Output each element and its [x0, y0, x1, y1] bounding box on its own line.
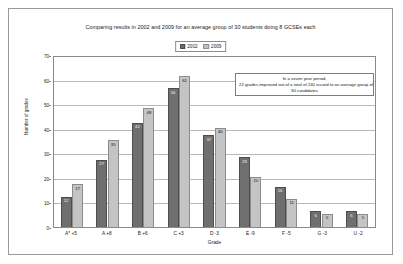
bar-slot: 27	[96, 56, 107, 228]
bar[interactable]: 42	[132, 123, 143, 228]
bar-slot: 37	[203, 56, 214, 228]
legend-label-2002: 2002	[187, 44, 197, 49]
x-tick-label: B +6	[125, 231, 161, 236]
bar[interactable]: 6	[310, 211, 321, 228]
bar-slot: 17	[72, 56, 83, 228]
bar-slot: 40	[215, 56, 226, 228]
y-tick-mark	[49, 130, 51, 131]
bar-value-label: 6	[350, 214, 352, 218]
bar-slot: 35	[108, 56, 119, 228]
x-axis-tick-labels: A* +5A +8B +6C +3D -3E -9F -5G -3U -2	[53, 231, 376, 236]
y-axis: 70 60 50 40 30 20 10 0	[33, 56, 51, 228]
bar-slot: 48	[143, 56, 154, 228]
bar[interactable]: 5	[357, 214, 368, 228]
y-tick-mark	[49, 154, 51, 155]
legend-swatch-icon-2009	[204, 44, 210, 50]
bar[interactable]: 20	[250, 177, 261, 228]
bar-slot: 61	[179, 56, 190, 228]
bar-value-label: 35	[111, 143, 116, 147]
bar-group: 5661	[161, 56, 197, 228]
bar[interactable]: 56	[168, 88, 179, 228]
bar-value-label: 56	[171, 91, 176, 95]
x-tick-label: A +8	[89, 231, 125, 236]
bar[interactable]: 11	[286, 199, 297, 228]
bar[interactable]: 27	[96, 160, 107, 228]
x-tick-label: D -3	[197, 231, 233, 236]
y-tick-mark	[49, 56, 51, 57]
bar-group: 1217	[54, 56, 90, 228]
bar[interactable]: 37	[203, 135, 214, 228]
bar-value-label: 6	[315, 214, 317, 218]
bar-value-label: 61	[182, 79, 187, 83]
bar-group: 2735	[90, 56, 126, 228]
y-tick-mark	[49, 228, 51, 229]
y-axis-title: Number of grades	[24, 87, 29, 147]
x-tick-label: F -5	[268, 231, 304, 236]
bar-slot: 12	[61, 56, 72, 228]
y-tick-mark	[49, 203, 51, 204]
bar-slot: 42	[132, 56, 143, 228]
bar-group: 3740	[197, 56, 233, 228]
bar-value-label: 40	[218, 130, 223, 134]
bar-value-label: 12	[64, 199, 69, 203]
legend-label-2009: 2009	[211, 44, 221, 49]
bar[interactable]: 48	[143, 108, 154, 228]
bar-value-label: 5	[326, 216, 328, 220]
bar-value-label: 20	[254, 179, 259, 183]
bar[interactable]: 40	[215, 128, 226, 228]
bar-value-label: 11	[289, 201, 293, 205]
bar[interactable]: 35	[108, 140, 119, 228]
x-axis-title: Grade	[53, 240, 376, 245]
bar[interactable]: 61	[179, 76, 190, 228]
bar[interactable]: 12	[61, 197, 72, 228]
annotation-line-2: 22 grades improved out of a total of 240…	[239, 82, 370, 88]
bar-slot: 56	[168, 56, 179, 228]
legend-swatch-icon-2002	[180, 44, 186, 50]
bar-group: 4248	[125, 56, 161, 228]
annotation-box: In a seven year period, 22 grades improv…	[235, 73, 374, 96]
bar-value-label: 5	[362, 216, 364, 220]
bar-value-label: 28	[242, 160, 247, 164]
bar-value-label: 27	[99, 162, 104, 166]
bar-value-label: 17	[75, 187, 80, 191]
legend-item-2002: 2002	[180, 44, 198, 50]
bar[interactable]: 28	[239, 157, 250, 228]
y-tick-mark	[49, 179, 51, 180]
annotation-line-3: 30 candidates	[239, 88, 370, 94]
bar[interactable]: 6	[346, 211, 357, 228]
chart-title: Comparing results in 2002 and 2009 for a…	[9, 24, 392, 30]
x-tick-label: G -3	[304, 231, 340, 236]
bar-value-label: 16	[278, 189, 283, 193]
legend-item-2009: 2009	[204, 44, 222, 50]
bar[interactable]: 5	[322, 214, 333, 228]
bar[interactable]: 16	[275, 187, 286, 228]
x-tick-label: C +3	[161, 231, 197, 236]
x-tick-label: A* +5	[53, 231, 89, 236]
y-tick-mark	[49, 81, 51, 82]
y-tick-mark	[49, 105, 51, 106]
x-tick-label: U -2	[340, 231, 376, 236]
bar-value-label: 42	[135, 125, 140, 129]
bar[interactable]: 17	[72, 184, 83, 228]
chart-container: Comparing results in 2002 and 2009 for a…	[8, 8, 393, 255]
chart-legend: 2002 2009	[175, 41, 227, 52]
x-tick-label: E -9	[232, 231, 268, 236]
bar-value-label: 37	[206, 138, 211, 142]
bar-value-label: 48	[147, 111, 152, 115]
